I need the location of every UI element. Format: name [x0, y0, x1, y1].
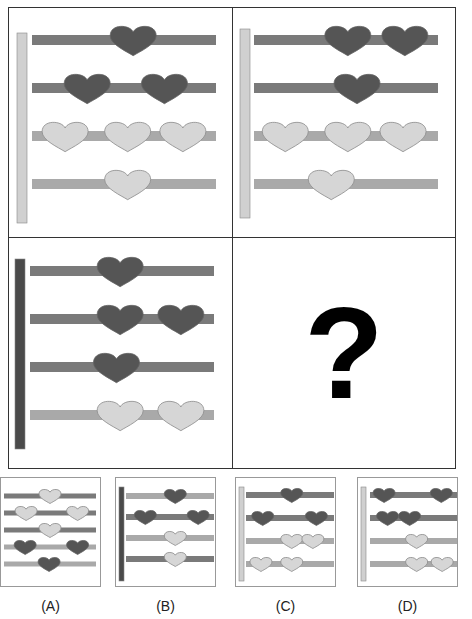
light-heart-icon [67, 506, 89, 520]
option-d-label: (D) [357, 598, 458, 614]
dark-heart-icon [110, 26, 156, 55]
light-heart-icon [105, 122, 151, 151]
puzzle-grid: ? [8, 7, 456, 469]
light-heart-icon [105, 170, 151, 199]
light-heart-icon [158, 401, 204, 430]
option-a[interactable] [0, 477, 101, 587]
light-heart-icon [42, 122, 88, 151]
abacus-figure [236, 478, 335, 586]
pole [239, 487, 244, 581]
light-heart-icon [406, 557, 428, 571]
cell-bottom-right-missing: ? [233, 238, 455, 468]
pole [119, 487, 124, 581]
dark-heart-icon [97, 257, 143, 286]
abacus-figure [116, 478, 215, 586]
dark-heart-icon [399, 511, 421, 525]
dark-heart-icon [64, 74, 110, 103]
light-heart-icon [380, 122, 426, 151]
light-heart-icon [262, 122, 308, 151]
option-b[interactable] [115, 477, 216, 587]
abacus-figure [9, 8, 232, 237]
dark-heart-icon [14, 540, 36, 554]
dark-heart-icon [158, 305, 204, 334]
light-heart-icon [39, 523, 61, 537]
pole [15, 259, 25, 449]
dark-heart-icon [134, 510, 156, 524]
light-heart-icon [250, 557, 272, 571]
light-heart-icon [15, 506, 37, 520]
pole [17, 33, 27, 223]
option-c[interactable] [235, 477, 336, 587]
light-heart-icon [97, 401, 143, 430]
light-heart-icon [281, 534, 303, 548]
abacus-figure [1, 478, 100, 586]
dark-heart-icon [252, 511, 274, 525]
dark-heart-icon [97, 305, 143, 334]
cell-top-left [9, 8, 232, 237]
abacus-figure [233, 8, 455, 237]
dark-heart-icon [164, 489, 186, 503]
dark-heart-icon [187, 510, 209, 524]
dark-heart-icon [305, 511, 327, 525]
light-heart-icon [302, 534, 324, 548]
cell-top-right [233, 8, 455, 237]
light-heart-icon [308, 170, 354, 199]
dark-heart-icon [377, 511, 399, 525]
dark-heart-icon [334, 74, 380, 103]
dark-heart-icon [67, 540, 89, 554]
dark-heart-icon [38, 557, 60, 571]
grid-divider-vertical [232, 8, 233, 468]
light-heart-icon [160, 122, 206, 151]
option-a-label: (A) [0, 598, 101, 614]
grid-divider-horizontal [9, 237, 455, 238]
light-heart-icon [281, 557, 303, 571]
pole [240, 29, 250, 218]
option-c-label: (C) [235, 598, 336, 614]
bar [32, 83, 216, 93]
light-heart-icon [164, 531, 186, 545]
dark-heart-icon [93, 353, 139, 382]
light-heart-icon [325, 122, 371, 151]
pole [361, 487, 366, 581]
option-d[interactable] [357, 477, 458, 587]
light-heart-icon [39, 489, 61, 503]
question-mark-icon: ? [233, 238, 455, 468]
abacus-figure [358, 478, 457, 586]
cell-bottom-left [9, 238, 232, 468]
light-heart-icon [431, 557, 453, 571]
dark-heart-icon [281, 488, 303, 502]
light-heart-icon [164, 552, 186, 566]
dark-heart-icon [373, 488, 395, 502]
dark-heart-icon [325, 26, 371, 55]
light-heart-icon [406, 534, 428, 548]
dark-heart-icon [141, 74, 187, 103]
option-b-label: (B) [115, 598, 216, 614]
abacus-figure [9, 238, 232, 468]
dark-heart-icon [382, 26, 428, 55]
dark-heart-icon [430, 488, 452, 502]
